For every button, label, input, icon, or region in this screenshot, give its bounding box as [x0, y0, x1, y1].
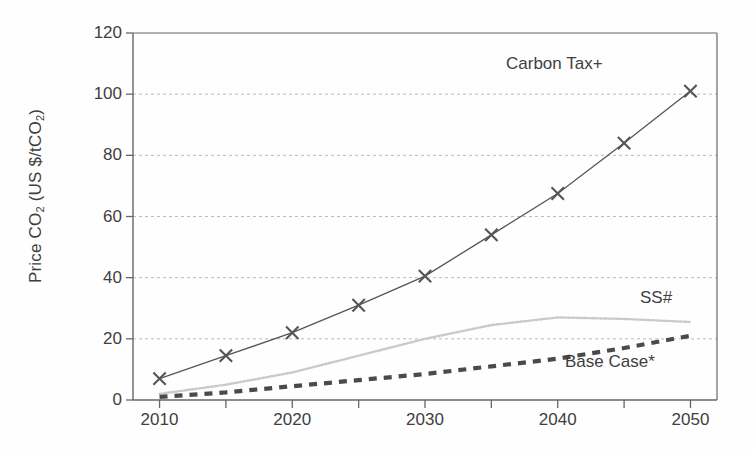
series-marker-carbon-tax [352, 299, 364, 311]
series-label-ss: SS# [640, 288, 672, 308]
series-marker-carbon-tax [153, 372, 165, 384]
series-label-base-case: Base Case* [565, 352, 655, 372]
series-line-carbon-tax [160, 91, 691, 378]
series-marker-carbon-tax [684, 85, 696, 97]
plot-area [0, 0, 754, 452]
series-marker-carbon-tax [419, 270, 431, 282]
series-marker-carbon-tax [618, 137, 630, 149]
series-marker-carbon-tax [485, 229, 497, 241]
series-marker-carbon-tax [220, 349, 232, 361]
co2-price-chart: Price CO2 (US $/tCO2) 020406080100120 20… [0, 0, 754, 452]
series-marker-carbon-tax [286, 327, 298, 339]
series-marker-carbon-tax [552, 187, 564, 199]
series-label-carbon-tax: Carbon Tax+ [506, 54, 603, 74]
